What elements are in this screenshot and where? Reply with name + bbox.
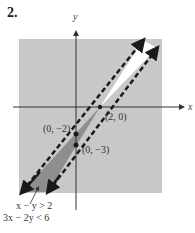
point-2-0 [98,105,102,109]
inequality-label-2: 3x − 2y < 6 [3,212,49,223]
point-label-0-neg2: (0, −2) [43,123,70,135]
point-label-2-0: (2, 0) [105,111,127,123]
inequality-graph: x y (2, 0) (0, −2) (0, −3) x − y > 2 3x … [0,0,195,233]
point-0-neg3 [74,143,79,148]
y-axis-label: y [72,11,78,22]
point-label-0-neg3: (0, −3) [82,144,109,156]
x-axis-label: x [187,101,193,112]
point-0-neg2 [74,132,79,137]
inequality-label-1: x − y > 2 [16,200,52,211]
